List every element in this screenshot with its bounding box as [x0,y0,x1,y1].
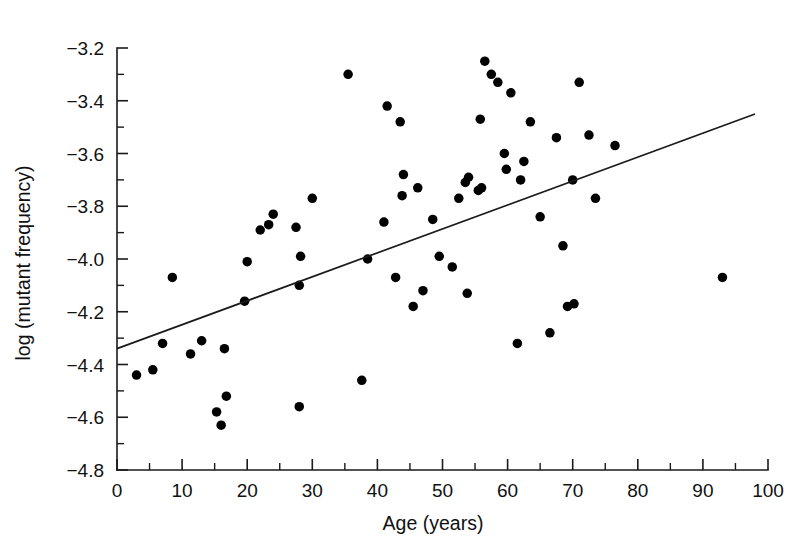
data-point [357,376,367,386]
y-tick-label: −4.8 [66,460,104,481]
x-tick-label: 100 [752,480,784,501]
data-point [308,194,318,204]
x-tick-label: 20 [237,480,258,501]
data-point [480,56,490,66]
data-point [168,273,178,283]
data-point [718,273,728,283]
x-axis-title: Age (years) [383,512,484,534]
data-point [502,165,512,175]
data-point [418,286,428,296]
x-tick-label: 80 [627,480,648,501]
data-point [500,149,510,159]
y-tick-label: −4.0 [66,249,104,270]
data-point [296,252,306,262]
data-point [584,130,594,140]
data-point [242,257,252,267]
data-point [574,78,584,88]
data-point [513,339,523,349]
x-tick-label: 60 [497,480,518,501]
data-point [343,70,353,80]
y-tick-label: −3.2 [66,38,104,59]
data-point [391,273,401,283]
data-point [477,183,487,193]
data-point [395,117,405,127]
data-point [222,391,232,401]
regression-trend-line [117,114,755,349]
data-point [519,157,529,167]
y-tick-label: −4.4 [66,355,104,376]
data-point [216,420,226,430]
data-point [132,370,142,380]
y-tick-label: −3.6 [66,144,104,165]
data-point [291,223,301,233]
plot-canvas: −3.2−3.4−3.6−3.8−4.0−4.2−4.4−4.6−4.8 010… [0,0,810,549]
data-point [255,225,265,235]
data-point [379,217,389,227]
y-tick-label: −4.2 [66,302,104,323]
data-point [569,299,579,309]
x-tick-label: 50 [432,480,453,501]
data-point [435,252,445,262]
x-tick-label: 10 [172,480,193,501]
x-tick-label: 70 [562,480,583,501]
data-point [464,172,474,182]
data-point [264,220,274,230]
y-axis-ticks [117,48,128,470]
scatter-plot-figure: −3.2−3.4−3.6−3.8−4.0−4.2−4.4−4.6−4.8 010… [0,0,810,549]
data-point [220,344,230,354]
data-point [545,328,555,338]
data-point [516,175,526,185]
data-point [506,88,515,98]
x-tick-label: 40 [367,480,388,501]
y-tick-label: −4.6 [66,407,104,428]
data-point [558,241,568,251]
data-point [493,78,503,88]
data-point [186,349,196,359]
y-tick-label: −3.8 [66,196,104,217]
data-point [591,194,601,204]
data-point [448,262,458,272]
data-point [382,101,392,111]
data-point [148,365,158,375]
y-tick-label: −3.4 [66,91,104,112]
data-point [295,402,305,412]
data-point [476,114,486,124]
data-point [552,133,562,143]
data-point [413,183,423,193]
data-point [212,407,222,417]
data-point [610,141,620,151]
data-point [487,70,497,80]
data-points-group [132,56,727,429]
x-axis-tick-labels: 0102030405060708090100 [112,480,784,501]
data-point [454,194,464,204]
data-point [428,215,438,225]
data-point [535,212,545,222]
y-axis-title: log (mutant frequency) [12,165,34,360]
x-tick-label: 30 [302,480,323,501]
data-point [158,339,168,349]
x-tick-label: 90 [692,480,713,501]
data-point [526,117,536,127]
data-point [399,170,409,180]
data-point [397,191,407,201]
data-point [462,289,472,299]
data-point [197,336,207,346]
x-tick-label: 0 [112,480,123,501]
data-point [408,302,418,312]
data-point [268,209,278,219]
y-axis-tick-labels: −3.2−3.4−3.6−3.8−4.0−4.2−4.4−4.6−4.8 [66,38,104,481]
x-axis-ticks [117,459,768,470]
